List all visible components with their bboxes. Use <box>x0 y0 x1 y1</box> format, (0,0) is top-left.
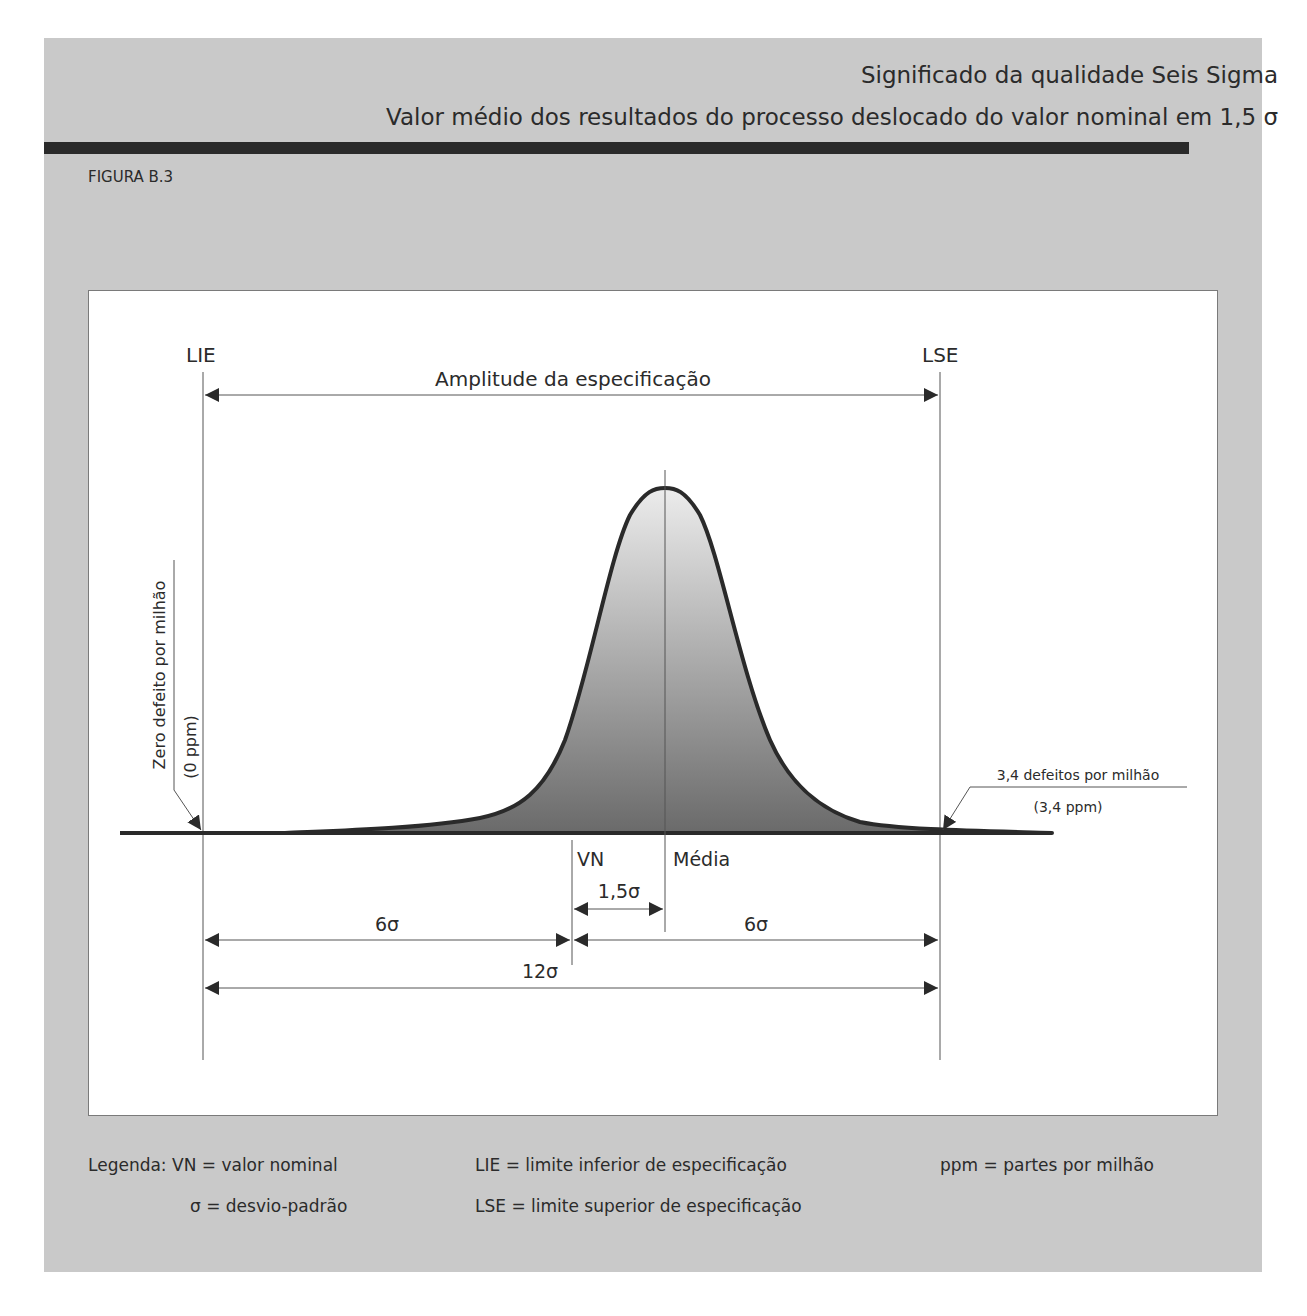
legend-item-ppm: ppm = partes por milhão <box>940 1155 1154 1175</box>
lse-label: LSE <box>922 343 958 367</box>
spec-range-label: Amplitude da especificação <box>435 367 711 391</box>
legend-title: Legenda: <box>88 1155 167 1175</box>
distribution-curve <box>285 488 1052 833</box>
shift-label: 1,5σ <box>598 880 640 902</box>
lie-label: LIE <box>186 343 216 367</box>
legend-item-lie: LIE = limite inferior de especificação <box>475 1155 787 1175</box>
total-span-label: 12σ <box>522 960 558 982</box>
right-span-label: 6σ <box>744 913 768 935</box>
defects-label: 3,4 defeitos por milhão <box>997 767 1160 783</box>
legend-item-sigma: σ = desvio-padrão <box>190 1196 347 1216</box>
legend-item-lse: LSE = limite superior de especificação <box>475 1196 802 1216</box>
six-sigma-diagram: LIE LSE Amplitude da especificação Zero … <box>0 0 1307 1316</box>
zero-defect-leader <box>174 560 201 830</box>
left-span-label: 6σ <box>375 913 399 935</box>
legend-item-vn: VN = valor nominal <box>172 1155 338 1175</box>
vn-label: VN <box>577 848 604 870</box>
zero-defect-label: Zero defeito por milhão <box>150 581 169 770</box>
defects-ppm: (3,4 ppm) <box>1033 799 1102 815</box>
mean-label: Média <box>673 848 730 870</box>
zero-defect-ppm: (0 ppm) <box>181 715 200 779</box>
